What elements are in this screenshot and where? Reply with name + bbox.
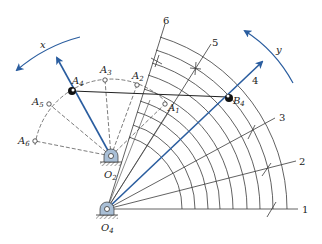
point-a1 [163, 102, 167, 106]
label-ray-1: 1 [302, 204, 308, 215]
joint-a4 [68, 87, 76, 95]
dashed-construction [35, 79, 167, 156]
label-ray-3: 3 [279, 112, 285, 123]
label-a5: A5 [31, 96, 44, 109]
label-ray-4: 4 [252, 75, 258, 86]
label-y: y [275, 44, 282, 55]
label-b4: B4 [232, 95, 245, 108]
label-ray-2: 2 [299, 156, 305, 167]
labels: A1 A2 A3 A4 A5 A6 B4 O2 O4 1 2 3 4 5 6 x… [17, 15, 308, 235]
point-a2 [135, 83, 139, 87]
label-ray-6: 6 [163, 15, 169, 26]
point-a5 [47, 102, 51, 106]
rotation-arrow-x [17, 37, 80, 70]
point-a6 [33, 139, 37, 143]
label-o4: O4 [101, 222, 114, 235]
label-x: x [40, 39, 46, 50]
ground-pivot-o2 [100, 149, 122, 166]
mechanism-diagram: A1 A2 A3 A4 A5 A6 B4 O2 O4 1 2 3 4 5 6 x… [0, 0, 322, 244]
label-o2: O2 [104, 169, 117, 182]
coupler-link-a4-b4 [72, 91, 228, 97]
label-a1: A1 [167, 102, 180, 115]
label-a2: A2 [131, 70, 144, 83]
ray-3 [107, 118, 275, 209]
label-a3: A3 [99, 64, 112, 77]
label-ray-5: 5 [212, 37, 218, 48]
label-a6: A6 [17, 135, 30, 148]
joint-b4 [225, 94, 233, 102]
point-a3 [103, 78, 107, 82]
